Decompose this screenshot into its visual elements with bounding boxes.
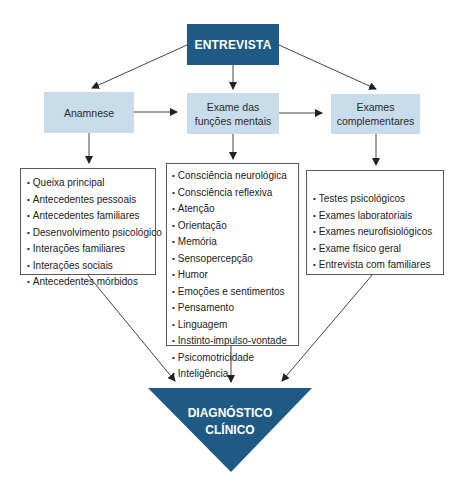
- list-item: Linguagem: [172, 317, 298, 334]
- list-item: Testes psicológicos: [313, 191, 443, 208]
- list-item: Orientação: [172, 218, 298, 235]
- stage-label-line1: Exames: [337, 100, 415, 114]
- list-anamnese-items: Queixa principal Antecedentes pessoais A…: [20, 168, 156, 275]
- diagnosis-label: DIAGNÓSTICO CLÍNICO: [148, 405, 312, 439]
- list-item: Sensopercepção: [172, 251, 298, 268]
- stage-node-anamnese: Anamnese: [44, 92, 134, 133]
- list-item: Consciência neurológica: [172, 168, 298, 185]
- list-item: Inteligência: [172, 366, 298, 383]
- diagnosis-label-line2: CLÍNICO: [148, 422, 312, 439]
- stage-label-line1: Anamnese: [64, 106, 114, 120]
- list-item: Interações sociais: [27, 258, 155, 275]
- list-item: Desenvolvimento psicológico: [27, 225, 155, 242]
- list-item: Psicomotricidade: [172, 350, 298, 367]
- stage-label-line2: complementares: [337, 114, 415, 128]
- list-item: Antecedentes mórbidos: [27, 274, 155, 291]
- list-item: Atenção: [172, 201, 298, 218]
- list-funcoes-mentais-items: Consciência neurológica Consciência refl…: [166, 163, 299, 346]
- root-node-entrevista: ENTREVISTA: [187, 24, 279, 65]
- list-item: Antecedentes familiares: [27, 208, 155, 225]
- stage-label-line2: funções mentais: [195, 114, 271, 128]
- list-item: Antecedentes pessoais: [27, 192, 155, 209]
- list-item: Consciência reflexiva: [172, 185, 298, 202]
- list-item: Instinto-impulso-vontade: [172, 333, 298, 350]
- list-exames-complementares-items: Testes psicológicos Exames laboratoriais…: [306, 170, 444, 275]
- stage-node-exame-funcoes-mentais: Exame das funções mentais: [187, 93, 279, 134]
- diagram-canvas: ENTREVISTA Anamnese Exame das funções me…: [0, 0, 460, 494]
- list-item: Interações familiares: [27, 241, 155, 258]
- list-item: Emoções e sentimentos: [172, 284, 298, 301]
- arrow-root-to-anamnese: [92, 45, 187, 88]
- list-item: Exames neurofisiológicos: [313, 224, 443, 241]
- arrow-root-to-complementares: [279, 45, 376, 89]
- list-item: Exames laboratoriais: [313, 208, 443, 225]
- root-label: ENTREVISTA: [194, 38, 271, 52]
- stage-node-exames-complementares: Exames complementares: [331, 94, 420, 134]
- list-item: Humor: [172, 267, 298, 284]
- list-item: Pensamento: [172, 300, 298, 317]
- diagnosis-label-line1: DIAGNÓSTICO: [148, 405, 312, 422]
- list-item: Queixa principal: [27, 175, 155, 192]
- list-item: Memória: [172, 234, 298, 251]
- stage-label-line1: Exame das: [195, 100, 271, 114]
- list-item: Exame físico geral: [313, 241, 443, 258]
- list-item: Entrevista com familiares: [313, 257, 443, 274]
